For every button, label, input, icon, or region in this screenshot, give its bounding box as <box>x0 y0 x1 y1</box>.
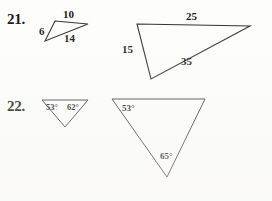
worksheet-page: 21. 22. 6 10 14 15 25 35 53° 62° 53° 65° <box>0 0 272 201</box>
side-label-10: 10 <box>63 9 74 20</box>
angle-label-22-small-53: 53° <box>46 103 58 112</box>
angle-label-22-large-53: 53° <box>122 104 135 113</box>
side-label-6: 6 <box>39 26 45 37</box>
angle-label-22-large-65: 65° <box>160 152 173 161</box>
angle-label-22-small-62: 62° <box>67 103 79 112</box>
triangle-21-large <box>137 24 250 79</box>
side-label-35: 35 <box>181 56 192 67</box>
side-label-14: 14 <box>64 33 75 44</box>
side-label-25: 25 <box>186 11 197 22</box>
side-label-15: 15 <box>122 44 133 55</box>
